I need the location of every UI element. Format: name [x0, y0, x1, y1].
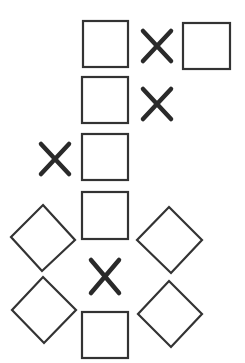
shape-diagram	[0, 0, 245, 363]
square-shape	[82, 77, 128, 123]
cross-icon	[143, 89, 171, 119]
cross-icon	[91, 260, 119, 293]
square-shape	[82, 312, 128, 358]
square-shape	[82, 192, 128, 239]
square-shape	[82, 134, 128, 180]
square-shape	[183, 23, 230, 69]
square-shape	[83, 21, 128, 67]
cross-icon	[41, 144, 69, 174]
diamond-shape	[138, 281, 202, 347]
square-group	[82, 21, 230, 358]
diamond-shape	[12, 277, 76, 343]
diamond-shape	[11, 205, 75, 271]
cross-icon	[143, 31, 171, 61]
diamond-shape	[137, 207, 202, 273]
